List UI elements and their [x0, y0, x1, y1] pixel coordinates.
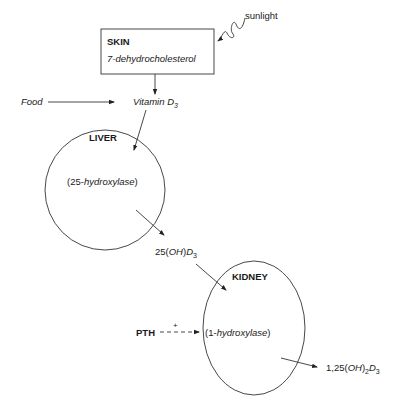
kidney-title: KIDNEY: [232, 271, 269, 282]
kidney: KIDNEY (1-hydroxylase): [203, 261, 305, 395]
sunlight-squiggle-arrow-icon: [218, 18, 245, 41]
liver-title: LIVER: [89, 132, 117, 143]
calcitriol-label: 1,25(OH)2D3: [326, 362, 380, 375]
vitamin-d3-label: Vitamin D3: [133, 96, 178, 109]
vitamin-d-diagram: SKIN 7-dehydrocholesterol sunlight Food …: [0, 0, 402, 410]
kidney-enzyme: (1-hydroxylase): [205, 327, 271, 338]
sunlight-label: sunlight: [245, 10, 278, 21]
pth-label: PTH: [136, 327, 155, 338]
liver: LIVER (25-hydroxylase): [45, 130, 165, 250]
liver-enzyme: (25-hydroxylase): [67, 176, 138, 187]
pth-plus-sign: +: [173, 321, 178, 330]
food-label: Food: [21, 96, 43, 107]
sunlight-ray: sunlight: [218, 10, 278, 41]
liver-circle: [45, 130, 165, 250]
skin-box: SKIN 7-dehydrocholesterol: [101, 29, 214, 74]
skin-substance: 7-dehydrocholesterol: [107, 53, 197, 64]
25ohd3-to-kidney-arrow-icon: [196, 264, 226, 290]
25-oh-d3-label: 25(OH)D3: [155, 246, 197, 259]
skin-title: SKIN: [107, 36, 130, 47]
